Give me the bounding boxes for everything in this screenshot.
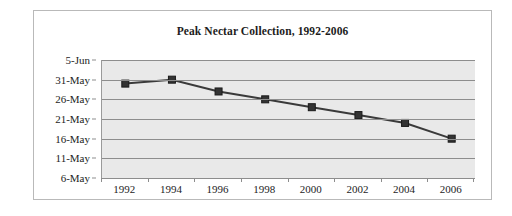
plot-area (101, 60, 475, 178)
y-axis-tick (92, 138, 96, 139)
gridline (102, 158, 475, 159)
gridline (102, 60, 475, 61)
y-axis-tick (92, 60, 96, 61)
y-axis-tick (92, 158, 96, 159)
y-axis-tick (92, 79, 96, 80)
y-axis-tick-label: 26-May (55, 93, 90, 105)
x-axis-tick (427, 178, 428, 182)
x-axis-tick-label: 2002 (346, 183, 368, 195)
data-point-marker (122, 80, 129, 87)
y-axis-tick-label: 21-May (55, 113, 90, 125)
x-axis-tick (334, 178, 335, 182)
x-axis-tick (194, 178, 195, 182)
x-axis-tick (148, 178, 149, 182)
x-axis-tick-label: 2006 (440, 183, 462, 195)
x-axis-tick-label: 1992 (113, 183, 135, 195)
gridline (102, 119, 475, 120)
gridline (102, 139, 475, 140)
y-axis-tick (92, 178, 96, 179)
x-axis-line (102, 178, 475, 179)
x-axis-tick (288, 178, 289, 182)
y-axis-tick-label: 6-May (61, 172, 90, 184)
data-point-marker (355, 112, 362, 119)
chart-title: Peak Nectar Collection, 1992-2006 (34, 25, 491, 37)
x-axis-tick-label: 1998 (253, 183, 275, 195)
data-point-marker (308, 104, 315, 111)
x-axis: 19921994199619982000200220042006 (101, 181, 474, 199)
gridline (102, 80, 475, 81)
x-axis-tick (473, 178, 474, 182)
y-axis-tick-label: 5-Jun (66, 54, 90, 66)
x-axis-tick-label: 1994 (160, 183, 182, 195)
gridline (102, 99, 475, 100)
data-point-marker (215, 88, 222, 95)
x-axis-tick (241, 178, 242, 182)
y-axis-tick (92, 119, 96, 120)
series-line (125, 80, 451, 139)
x-axis-tick (381, 178, 382, 182)
data-point-marker (402, 119, 409, 126)
y-axis-tick-label: 31-May (55, 74, 90, 86)
x-axis-tick (101, 178, 102, 182)
y-axis-tick-label: 16-May (55, 133, 90, 145)
x-axis-tick-label: 2000 (300, 183, 322, 195)
x-axis-tick-label: 1996 (207, 183, 229, 195)
y-axis: 6-May11-May16-May21-May26-May31-May5-Jun (34, 60, 96, 178)
y-axis-tick (92, 99, 96, 100)
x-axis-tick-label: 2004 (393, 183, 415, 195)
chart-container: Peak Nectar Collection, 1992-2006 6-May1… (33, 10, 492, 200)
y-axis-tick-label: 11-May (56, 152, 90, 164)
